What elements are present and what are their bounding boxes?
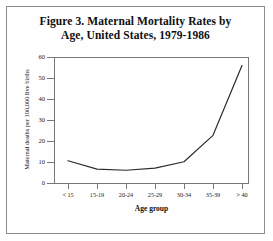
y-tick-label: 40 [23,95,45,102]
y-tick-label: 20 [23,137,45,144]
y-tick-label: 0 [23,179,45,186]
x-axis-tick [97,184,98,189]
y-tick-label: 10 [23,158,45,165]
y-axis-tick [47,78,54,79]
x-axis-tick [126,184,127,189]
y-axis-tick [47,141,54,142]
figure-title-line-2: Age, United States, 1979-1986 [7,29,264,43]
x-axis-title: Age group [54,204,249,213]
x-axis-tick [242,184,243,189]
figure-card: Figure 3. Maternal Mortality Rates by Ag… [6,6,265,234]
line-series-maternal-mortality [54,57,249,184]
y-tick-label: 30 [23,116,45,123]
x-axis-tick [184,184,185,189]
y-axis-tick [47,162,54,163]
y-axis-tick [47,57,54,58]
x-axis-tick [68,184,69,189]
x-axis-tick [213,184,214,189]
chart-plot-area: Maternal deaths per 100,000 live births … [7,49,266,235]
y-axis-tick [47,183,54,184]
x-axis-tick [155,184,156,189]
y-tick-label: 50 [23,74,45,81]
figure-title-line-1: Figure 3. Maternal Mortality Rates by [7,15,264,29]
x-tick-label: > 40 [225,191,259,199]
y-tick-label: 60 [23,53,45,60]
y-axis-tick [47,99,54,100]
figure-title: Figure 3. Maternal Mortality Rates by Ag… [7,15,264,42]
y-axis-tick [47,120,54,121]
